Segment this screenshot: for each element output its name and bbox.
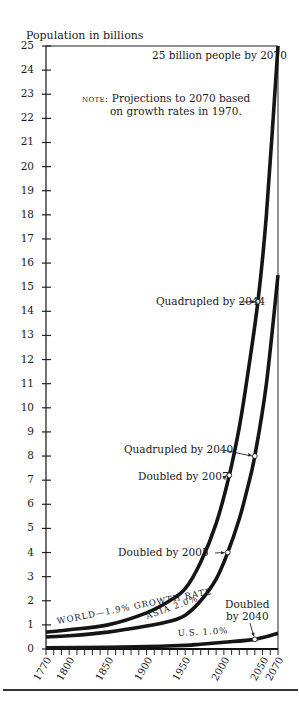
arrowhead-icon [221,551,225,554]
series-world-curve [46,46,278,632]
bottom-separator [3,689,298,691]
note-annotation: note: Projections to 2070 based on growt… [82,92,250,118]
series-asia-curve [46,275,278,637]
marker-label-us-line-2: by 2040 [225,610,270,622]
marker-label-us-doubled: Doubled by 2040 [225,598,270,622]
data-point-marker [252,454,257,459]
data-point-marker [225,550,230,555]
data-point-marker [252,637,257,642]
top-annotation: 25 billion people by 2070 [152,49,287,61]
note-line-2: on growth rates in 1970. [82,105,250,118]
axes [42,46,278,655]
marker-label-us-line-1: Doubled [225,598,270,610]
note-prefix: note: [82,93,109,104]
marker-label-asia-quadrupled: Quadrupled by 2040 [124,443,233,455]
note-line-1: Projections to 2070 based [109,92,251,104]
marker-label-asia-doubled: Doubled by 2005 [118,546,209,558]
marker-label-world-quadrupled: Quadrupled by 2044 [156,295,265,307]
marker-label-world-doubled: Doubled by 2007 [138,470,229,482]
marker-arrows [215,300,255,636]
